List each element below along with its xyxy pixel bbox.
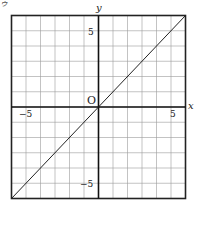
y-axis-label: y [96,3,102,13]
x-tick-label-neg5: −5 [19,110,32,119]
y-tick-label-neg5: −5 [80,180,93,189]
x-axis-label: x [188,101,194,111]
origin-label: O [87,95,96,106]
x-tick-label-5: 5 [170,110,176,119]
y-tick-label-5: 5 [88,28,94,37]
corner-mark: ゥ [0,0,8,8]
